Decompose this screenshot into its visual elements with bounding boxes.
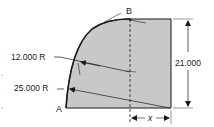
margin-speck — [1, 107, 2, 108]
large-radius-label: 25.000 R — [14, 83, 49, 93]
margin-speck — [1, 74, 2, 75]
point-b-marker — [129, 18, 132, 21]
width-dimension-label: x — [147, 113, 153, 123]
point-a-label: A — [56, 104, 62, 114]
part-body — [66, 19, 171, 108]
point-b-label: B — [126, 6, 132, 16]
small-radius-label: 12.000 R — [11, 52, 46, 62]
height-dimension-label: 21.000 — [175, 58, 201, 68]
part-diagram: B A 12.000 R 25.000 R 21.000 x — [0, 0, 214, 127]
